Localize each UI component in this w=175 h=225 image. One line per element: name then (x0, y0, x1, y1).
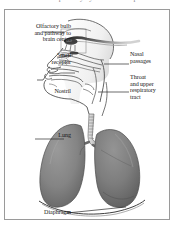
clipped-title-strip: the human respiratory system and its par… (0, 0, 175, 7)
label-olfactory-bulb: Olfactory bulb and pathway to brain cent… (8, 23, 71, 43)
respiratory-system-figure: the human respiratory system and its par… (0, 0, 175, 225)
figure-title: the human respiratory system and its par… (14, 0, 149, 2)
label-nostril: Nostril (11, 88, 71, 95)
label-nasal-passages: Nasal passages (130, 51, 170, 64)
label-diaphragm: Diaphragm (9, 209, 71, 216)
label-lung: Lung (11, 132, 71, 139)
figure-plate-frame: Olfactory bulb and pathway to brain cent… (4, 9, 170, 220)
lung-right-shape (95, 130, 140, 208)
leader-diaphragm-run (67, 207, 126, 213)
label-smell-receptor: Smell receptor (15, 52, 71, 65)
label-throat: Throat and upper respiratory tract (130, 74, 170, 100)
